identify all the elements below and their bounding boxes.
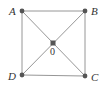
point-o: [51, 41, 56, 46]
label-c: C: [91, 71, 99, 83]
label-a: A: [8, 5, 16, 17]
point-d: [20, 73, 25, 78]
square-diagram: A B C D 0: [0, 0, 109, 87]
label-o: 0: [50, 46, 55, 57]
point-a: [20, 9, 25, 14]
label-d: D: [7, 70, 16, 82]
point-c: [83, 74, 88, 79]
label-b: B: [91, 5, 98, 17]
segment-cd: [22, 75, 85, 76]
point-b: [83, 9, 88, 14]
